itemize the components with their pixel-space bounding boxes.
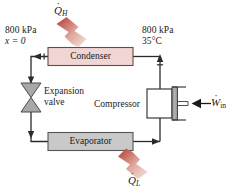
expansion-valve-lower-triangle xyxy=(21,98,41,113)
compressor-label: Compressor xyxy=(88,99,146,110)
heat-rejected-dot: ˙ xyxy=(56,1,60,12)
expansion-valve-label-line1: Expansion xyxy=(44,86,84,97)
work-input-dot: ˙ xyxy=(213,93,217,104)
heat-rejected-arrow-shape xyxy=(57,17,87,47)
expansion-valve-upper-triangle xyxy=(21,83,41,98)
heat-absorbed-subscript: L xyxy=(136,179,140,188)
expansion-valve-label: Expansion valve xyxy=(44,86,84,108)
work-arrow-head xyxy=(192,99,202,108)
condenser-label: Condenser xyxy=(48,51,133,62)
work-input-symbol-group: ˙W xyxy=(211,96,220,109)
compressor-exit-temperature-label: 35°C xyxy=(142,36,162,47)
evaporator-label: Evaporator xyxy=(48,136,133,147)
condenser-inlet-quality-label: x = 0 xyxy=(5,36,26,47)
heat-absorbed-label: ˙QL xyxy=(128,174,140,188)
compressor-exit-pressure-label: 800 kPa xyxy=(142,25,174,36)
compressor-cylinder-body xyxy=(147,89,172,118)
heat-rejected-subscript: H xyxy=(62,9,67,18)
compressor-piston xyxy=(172,87,178,120)
heat-rejected-symbol-group: ˙Q xyxy=(54,4,62,17)
refrigeration-cycle-diagram: Condenser Evaporator Expansion valve Com… xyxy=(0,0,229,195)
work-input-subscript: in xyxy=(220,101,226,110)
flow-arrow-downcomer-lower xyxy=(28,131,34,139)
work-input-label: ˙Win xyxy=(211,96,226,110)
heat-rejected-arrow xyxy=(57,17,87,47)
work-input-arrow xyxy=(192,99,212,108)
heat-rejected-label: ˙QH xyxy=(54,4,67,18)
flow-tick-condenser xyxy=(44,53,45,59)
flow-arrow-evaporator-outlet xyxy=(152,138,160,145)
condenser-inlet-pressure-label: 800 kPa xyxy=(5,25,37,36)
compressor-symbol xyxy=(147,87,188,120)
pipe-condenser-to-valve xyxy=(31,57,48,85)
flow-tick-riser xyxy=(157,64,163,65)
heat-absorbed-symbol-group: ˙Q xyxy=(128,174,136,187)
pipe-valve-to-evaporator xyxy=(31,111,48,142)
flow-arrow-riser-up xyxy=(157,54,163,62)
expansion-valve-symbol xyxy=(21,83,41,112)
heat-absorbed-dot: ˙ xyxy=(130,171,134,182)
expansion-valve-label-line2: valve xyxy=(44,97,84,108)
flow-arrow-condenser-inlet xyxy=(33,53,41,60)
